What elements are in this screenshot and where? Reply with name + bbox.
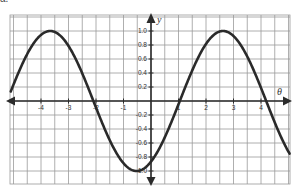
grid-border: [10, 15, 290, 184]
x-axis-label: θ: [277, 86, 282, 97]
y-axis-label: y: [156, 14, 162, 25]
y-tick-label: -0.8: [136, 153, 148, 160]
y-tick-label: 1.0: [138, 27, 147, 34]
y-tick-label: -0.2: [136, 111, 148, 118]
grid: [10, 15, 290, 184]
x-tick-label: -4: [38, 104, 44, 111]
axes: [6, 13, 292, 186]
x-axis-right-arrow-icon: [283, 97, 292, 106]
x-tick-label: 3: [232, 104, 236, 111]
y-axis-down-arrow-icon: [147, 177, 156, 186]
x-tick-label: 2: [204, 104, 208, 111]
x-tick-label: -3: [66, 104, 72, 111]
y-tick-label: 0.4: [138, 69, 147, 76]
y-tick-label: -0.6: [136, 139, 148, 146]
sine-graph: -4-3-2-112341.00.80.60.40.2-0.2-0.4-0.6-…: [0, 0, 294, 186]
x-tick-label: 4: [259, 104, 263, 111]
x-axis-left-arrow-icon: [6, 97, 15, 106]
y-tick-label: 0.6: [138, 55, 147, 62]
y-tick-label: -0.4: [136, 125, 148, 132]
y-tick-label: 0.8: [138, 41, 147, 48]
x-tick-label: -1: [121, 104, 127, 111]
y-axis-up-arrow-icon: [147, 13, 156, 23]
y-tick-label: 0.2: [138, 83, 147, 90]
